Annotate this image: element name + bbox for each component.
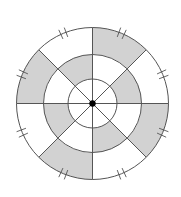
center-dot xyxy=(89,100,95,106)
concentric-sector-diagram xyxy=(0,0,181,197)
diagram-stage xyxy=(0,0,181,197)
